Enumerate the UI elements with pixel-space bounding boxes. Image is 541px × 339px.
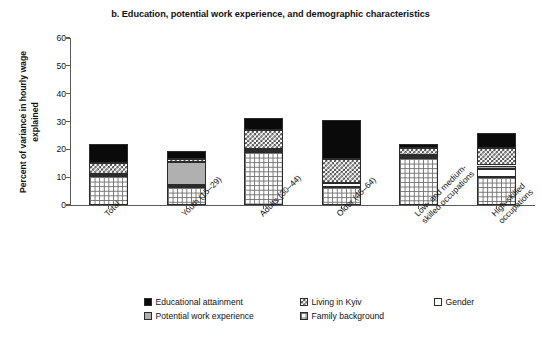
bar-segment <box>399 148 438 155</box>
bar-segment <box>89 163 128 174</box>
y-tick-label: 60 <box>56 33 66 43</box>
y-tick-label: 40 <box>56 89 66 99</box>
bar-segment <box>244 149 283 151</box>
y-tick-mark <box>66 204 70 205</box>
bar-segment <box>477 166 516 169</box>
bar-segment <box>89 176 128 205</box>
chart-title: b. Education, potential work experience,… <box>0 9 541 19</box>
legend-row: Potential work experienceFamily backgrou… <box>144 311 524 325</box>
legend-swatch-icon <box>300 298 308 306</box>
bar-segment <box>399 144 438 148</box>
y-tick-mark <box>66 37 70 38</box>
bar-segment <box>167 162 206 186</box>
y-axis-line <box>70 38 71 205</box>
chart-container: b. Education, potential work experience,… <box>0 0 541 339</box>
bar-segment <box>244 130 283 149</box>
legend-label: Potential work experience <box>156 311 254 321</box>
y-tick-mark <box>66 93 70 94</box>
bar-segment <box>167 151 206 159</box>
y-axis-title: Percent of variance in hourly wage expla… <box>22 52 36 192</box>
bar-segment <box>322 120 361 159</box>
y-tick-label: 50 <box>56 61 66 71</box>
legend-label: Educational attainment <box>156 297 243 307</box>
bar-segment <box>89 174 128 176</box>
bar-segment <box>477 169 516 177</box>
bar-3 <box>244 38 283 205</box>
bar-segment <box>322 183 361 187</box>
bar-segment <box>477 133 516 149</box>
bar-segment <box>477 148 516 165</box>
legend-label: Living in Kyiv <box>312 297 362 307</box>
legend-label: Gender <box>446 297 475 307</box>
legend-item: Educational attainment <box>144 297 243 307</box>
bar-5 <box>399 38 438 205</box>
bar-4 <box>322 38 361 205</box>
legend-swatch-icon <box>300 312 308 320</box>
y-tick-mark <box>66 121 70 122</box>
y-tick-label: 20 <box>56 144 66 154</box>
legend-item: Living in Kyiv <box>300 297 362 307</box>
bar-segment <box>167 159 206 162</box>
x-axis-line <box>70 205 535 206</box>
y-tick-mark <box>66 177 70 178</box>
bar-2 <box>167 38 206 205</box>
chart-legend: Educational attainmentLiving in KyivGend… <box>144 297 524 325</box>
legend-swatch-icon <box>434 298 442 306</box>
y-axis-tick-labels: 0102030405060 <box>36 38 66 205</box>
legend-label: Family background <box>312 311 385 321</box>
bar-1 <box>89 38 128 205</box>
y-tick-label: 10 <box>56 172 66 182</box>
bar-6 <box>477 38 516 205</box>
legend-swatch-icon <box>144 298 152 306</box>
legend-item: Gender <box>434 297 474 307</box>
y-tick-mark <box>66 65 70 66</box>
y-tick-mark <box>66 149 70 150</box>
legend-swatch-icon <box>144 312 152 320</box>
legend-row: Educational attainmentLiving in KyivGend… <box>144 297 524 311</box>
bar-segment <box>244 118 283 130</box>
bar-segment <box>89 144 128 163</box>
bar-segment <box>322 159 361 183</box>
legend-item: Potential work experience <box>144 311 254 321</box>
y-tick-label: 30 <box>56 117 66 127</box>
legend-item: Family background <box>300 311 384 321</box>
